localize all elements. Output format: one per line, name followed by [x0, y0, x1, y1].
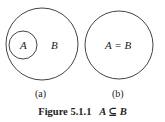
panel-a-label: (a)	[35, 89, 46, 99]
set-a-label: A	[20, 40, 27, 51]
set-b-circle-a	[6, 8, 78, 80]
panel-b-label: (b)	[112, 89, 124, 99]
equality-label: A = B	[105, 40, 131, 51]
caption-prefix: Figure 5.1.1	[38, 106, 91, 117]
caption-math: A ⊆ B	[99, 106, 126, 117]
figure-caption: Figure 5.1.1 A ⊆ B	[0, 106, 165, 118]
set-b-label: B	[51, 40, 58, 51]
venn-diagrams	[0, 0, 165, 122]
